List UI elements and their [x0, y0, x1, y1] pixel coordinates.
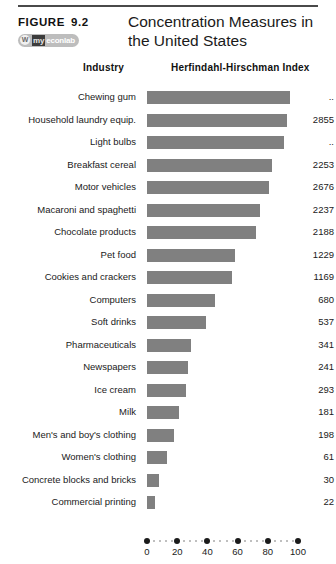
axis-tick-label: 20	[172, 546, 183, 557]
row-value: 680	[296, 289, 334, 312]
row-bar	[147, 181, 269, 194]
axis-tick-label: 80	[263, 546, 274, 557]
row-value: 2855	[296, 109, 334, 132]
row-value: 341	[296, 334, 334, 357]
chart-row: Chocolate products2188	[0, 221, 336, 244]
row-bar	[147, 204, 260, 217]
row-bar-track	[147, 114, 299, 127]
axis-minor-tick-dot	[195, 540, 197, 542]
row-bar-track	[147, 384, 299, 397]
row-bar-track	[147, 316, 299, 329]
row-bar-track	[147, 226, 299, 239]
axis-minor-tick-dot	[159, 540, 161, 542]
row-label: Chocolate products	[0, 221, 140, 244]
row-bar	[147, 316, 206, 329]
axis-minor-tick-dot	[250, 540, 252, 542]
row-value: ..	[296, 131, 334, 154]
row-value: ..	[296, 86, 334, 109]
row-bar-track	[147, 159, 299, 172]
row-value: 181	[296, 401, 334, 424]
x-axis-line	[147, 537, 298, 544]
header-divider	[18, 5, 318, 7]
row-label: Women's clothing	[0, 446, 140, 469]
axis-minor-tick-dot	[292, 540, 294, 542]
axis-minor-tick-dot	[226, 540, 228, 542]
axis-minor-tick-dot	[286, 540, 288, 542]
myeconlab-logo[interactable]: Wmyeconlab	[18, 34, 79, 47]
axis-minor-tick-dot	[213, 540, 215, 542]
figure-label: FIGURE9.2	[18, 16, 118, 28]
row-bar	[147, 451, 167, 464]
figure-label-block: FIGURE9.2 Wmyeconlab	[18, 16, 118, 47]
row-value: 30	[296, 469, 334, 492]
row-label: Milk	[0, 401, 140, 424]
chart-row: Milk181	[0, 401, 336, 424]
row-bar-track	[147, 451, 299, 464]
column-header-index: Herfindahl-Hirschman Index	[171, 62, 310, 73]
row-bar-track	[147, 429, 299, 442]
row-label: Chewing gum	[0, 86, 140, 109]
axis-minor-tick-dot	[201, 540, 203, 542]
row-value: 293	[296, 379, 334, 402]
column-headings: Industry Herfindahl-Hirschman Index	[0, 62, 336, 78]
row-label: Soft drinks	[0, 311, 140, 334]
row-bar-track	[147, 474, 299, 487]
chart-row: Commercial printing22	[0, 491, 336, 514]
myeconlab-mark-icon: W	[20, 35, 30, 45]
chart-row: Women's clothing61	[0, 446, 336, 469]
row-value: 2188	[296, 221, 334, 244]
row-bar-track	[147, 249, 299, 262]
axis-minor-tick-dot	[171, 540, 173, 542]
row-bar-track	[147, 136, 299, 149]
myeconlab-suffix: econlab	[45, 35, 75, 46]
row-bar	[147, 361, 188, 374]
row-value: 2676	[296, 176, 334, 199]
row-bar-track	[147, 339, 299, 352]
chart-row: Household laundry equip.2855	[0, 109, 336, 132]
row-value: 22	[296, 491, 334, 514]
column-header-industry: Industry	[83, 62, 124, 73]
chart-row: Concrete blocks and bricks30	[0, 469, 336, 492]
axis-minor-tick-dot	[165, 540, 167, 542]
page-title: Concentration Measures in the United Sta…	[128, 12, 328, 50]
row-label: Concrete blocks and bricks	[0, 469, 140, 492]
row-bar	[147, 339, 191, 352]
row-value: 2253	[296, 154, 334, 177]
row-bar-track	[147, 271, 299, 284]
row-bar	[147, 114, 287, 127]
row-label: Household laundry equip.	[0, 109, 140, 132]
row-value: 537	[296, 311, 334, 334]
row-value: 2237	[296, 199, 334, 222]
axis-tick-label: 60	[232, 546, 243, 557]
row-label: Breakfast cereal	[0, 154, 140, 177]
axis-major-tick-dot	[265, 538, 271, 544]
chart-row: Breakfast cereal2253	[0, 154, 336, 177]
bar-chart: Chewing gum..Household laundry equip.285…	[0, 86, 336, 531]
chart-row: Computers680	[0, 289, 336, 312]
row-label: Commercial printing	[0, 491, 140, 514]
chart-row: Pharmaceuticals341	[0, 334, 336, 357]
row-label: Motor vehicles	[0, 176, 140, 199]
axis-minor-tick-dot	[244, 540, 246, 542]
axis-minor-tick-dot	[256, 540, 258, 542]
axis-minor-tick-dot	[189, 540, 191, 542]
chart-row: Ice cream293	[0, 379, 336, 402]
axis-major-tick-dot	[295, 538, 301, 544]
row-label: Pharmaceuticals	[0, 334, 140, 357]
chart-row: Cookies and crackers1169	[0, 266, 336, 289]
row-bar	[147, 226, 256, 239]
axis-minor-tick-dot	[262, 540, 264, 542]
axis-major-tick-dot	[174, 538, 180, 544]
chart-row: Chewing gum..	[0, 86, 336, 109]
row-label: Ice cream	[0, 379, 140, 402]
axis-tick-label: 40	[202, 546, 213, 557]
axis-minor-tick-dot	[219, 540, 221, 542]
row-bar-track	[147, 361, 299, 374]
axis-minor-tick-dot	[232, 540, 234, 542]
row-bar-track	[147, 496, 299, 509]
axis-major-tick-dot	[144, 538, 150, 544]
chart-row: Macaroni and spaghetti2237	[0, 199, 336, 222]
axis-minor-tick-dot	[274, 540, 276, 542]
chart-row: Light bulbs..	[0, 131, 336, 154]
axis-major-tick-dot	[235, 538, 241, 544]
